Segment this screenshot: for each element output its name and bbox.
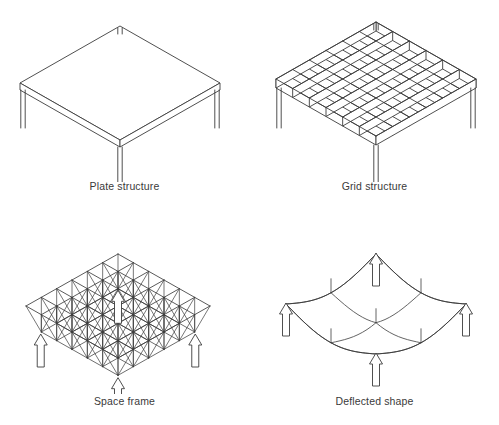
support-front (370, 353, 383, 386)
caption-plate-structure: Plate structure (0, 180, 249, 192)
space-frame-drawing (0, 212, 249, 394)
support-left (280, 303, 293, 336)
panel-grid-structure: Grid structure (250, 0, 499, 212)
support-front (112, 378, 125, 394)
panel-plate-structure: Plate structure (0, 0, 249, 212)
support-left (34, 334, 47, 367)
support-right (189, 334, 202, 367)
structural-systems-figure: Plate structure Grid structure Space fra… (0, 0, 499, 425)
support-back (112, 290, 125, 323)
caption-grid-structure: Grid structure (250, 180, 499, 192)
plate-structure-drawing (0, 0, 249, 182)
support-right (460, 303, 473, 336)
caption-deflected-shape: Deflected shape (250, 395, 499, 407)
panel-space-frame: Space frame (0, 212, 249, 424)
panel-deflected-shape: Deflected shape (250, 212, 499, 424)
support-back (370, 253, 383, 286)
grid-structure-drawing (250, 0, 499, 182)
caption-space-frame: Space frame (0, 395, 249, 407)
deflected-shape-drawing (250, 212, 499, 394)
plate-top-surface (20, 26, 220, 140)
